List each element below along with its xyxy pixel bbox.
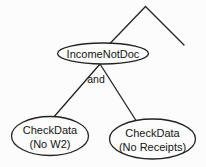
node-checkdata-no-w2-ellipse [12,117,89,156]
tree-canvas: IncomeNotDoc and CheckData (No W2) Check… [0,0,206,167]
node-incomenotdoc-label: IncomeNotDoc [67,48,140,60]
node-checkdata-no-receipts-title: CheckData [125,127,180,139]
node-checkdata-no-w2-title: CheckData [23,124,78,136]
edge-apex-to-incomenotdoc [109,7,146,45]
edge-apex-to-right-offscreen [146,7,185,46]
node-checkdata-no-receipts-subtitle: (No Receipts) [119,141,186,153]
edge-incomenotdoc-to-no-receipts [100,64,136,121]
decision-tree-diagram: IncomeNotDoc and CheckData (No W2) Check… [0,0,206,167]
node-checkdata-no-w2-subtitle: (No W2) [30,138,71,150]
node-checkdata-no-receipts-ellipse [110,119,196,159]
edge-operator-label: and [87,73,105,85]
